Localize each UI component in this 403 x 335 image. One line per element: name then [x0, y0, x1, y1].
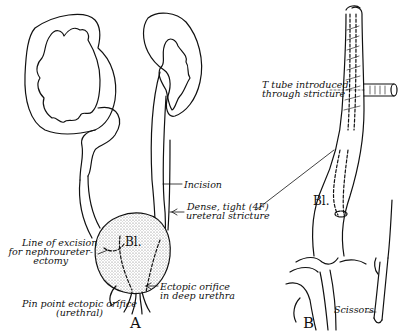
excision-label: Line of excision for nephroureter- ectom… — [4, 238, 97, 265]
incision-label: Incision — [184, 180, 222, 189]
pinpoint-line2: (urethral) — [22, 308, 137, 317]
ttube-line2: through stricture — [262, 89, 348, 98]
stricture-line2: ureteral stricture — [186, 211, 270, 220]
stricture-label: Dense, tight (4F) ureteral stricture — [186, 202, 270, 220]
pinpoint-orifice-label: Pin point ectopic orifice (urethral) — [22, 299, 137, 317]
excision-line3: ectomy — [4, 256, 97, 265]
ectopic-line2: in deep urethra — [160, 291, 235, 300]
incision-text: Incision — [184, 179, 222, 190]
left-kidney — [25, 14, 120, 238]
ttube-label: T tube introduced through stricture — [262, 80, 348, 98]
panel-label-b: B — [303, 314, 314, 332]
scissors-label: Scissors — [334, 305, 374, 314]
bladder-label-b: Bl. — [313, 194, 329, 208]
panel-label-a: A — [130, 314, 141, 332]
ureter-b — [286, 6, 397, 330]
bladder-label-a: Bl. — [125, 235, 141, 249]
ectopic-orifice-label: Ectopic orifice in deep urethra — [160, 282, 235, 300]
